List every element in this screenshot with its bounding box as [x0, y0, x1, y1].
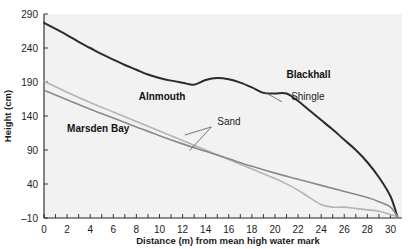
- x-tick-label: 30: [385, 224, 397, 235]
- annotation-label-sand: Sand: [217, 116, 240, 127]
- y-tick-label: 40: [27, 179, 39, 190]
- y-axis-title: Height (cm): [2, 90, 13, 142]
- series-label-blackhall: Blackhall: [287, 69, 331, 80]
- series-label-alnmouth: Alnmouth: [139, 91, 186, 102]
- y-tick-label: 240: [21, 43, 38, 54]
- y-tick-label: 90: [27, 145, 39, 156]
- x-tick-label: 16: [223, 224, 235, 235]
- y-tick-label: –10: [21, 213, 38, 224]
- x-tick-label: 12: [177, 224, 189, 235]
- y-tick-label: 290: [21, 9, 38, 20]
- x-tick-label: 4: [87, 224, 93, 235]
- beach-profile-chart: 024681012141618202224262830 –10409014019…: [0, 0, 416, 249]
- x-tick-label: 24: [316, 224, 328, 235]
- annotation-label-shingle: Shingle: [291, 91, 325, 102]
- x-tick-label: 10: [154, 224, 166, 235]
- series-label-marsden-bay: Marsden Bay: [67, 123, 130, 134]
- x-tick-label: 8: [134, 224, 140, 235]
- x-tick-label: 20: [269, 224, 281, 235]
- x-tick-label: 22: [293, 224, 305, 235]
- x-tick-label: 18: [246, 224, 258, 235]
- x-tick-label: 6: [111, 224, 117, 235]
- x-tick-label: 2: [64, 224, 70, 235]
- x-tick-label: 26: [339, 224, 351, 235]
- x-tick-label: 0: [41, 224, 47, 235]
- x-tick-label: 28: [362, 224, 374, 235]
- y-tick-label: 140: [21, 111, 38, 122]
- y-tick-label: 190: [21, 77, 38, 88]
- x-axis-title: Distance (m) from mean high water mark: [136, 235, 320, 246]
- x-tick-label: 14: [200, 224, 212, 235]
- chart-canvas: 024681012141618202224262830 –10409014019…: [0, 0, 416, 249]
